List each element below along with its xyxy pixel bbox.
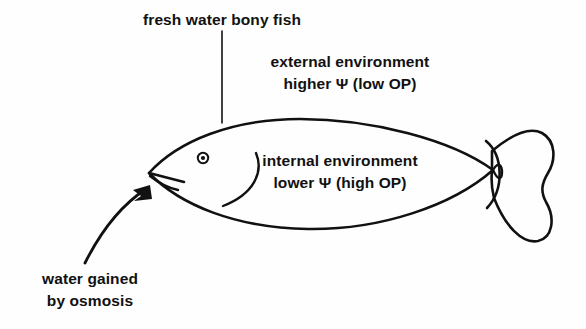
osmoregulation-diagram: fresh water bony fish external environme… xyxy=(0,0,586,329)
osmosis-line1: water gained xyxy=(0,268,180,290)
caudal-fin xyxy=(492,131,554,242)
internal-environment-line2: lower Ψ (high OP) xyxy=(215,172,465,194)
osmosis-line2: by osmosis xyxy=(0,290,180,312)
external-environment-line1: external environment xyxy=(225,51,475,73)
osmosis-arrow-head xyxy=(133,185,152,201)
external-environment-line2: higher Ψ (low OP) xyxy=(225,73,475,95)
internal-environment-line1: internal environment xyxy=(215,150,465,172)
water-gained-by-osmosis-label: water gained by osmosis xyxy=(0,268,180,312)
title-label: fresh water bony fish xyxy=(0,9,444,31)
internal-environment-label: internal environment lower Ψ (high OP) xyxy=(215,150,465,194)
fish-eye-pupil xyxy=(201,156,205,160)
external-environment-label: external environment higher Ψ (low OP) xyxy=(225,51,475,95)
